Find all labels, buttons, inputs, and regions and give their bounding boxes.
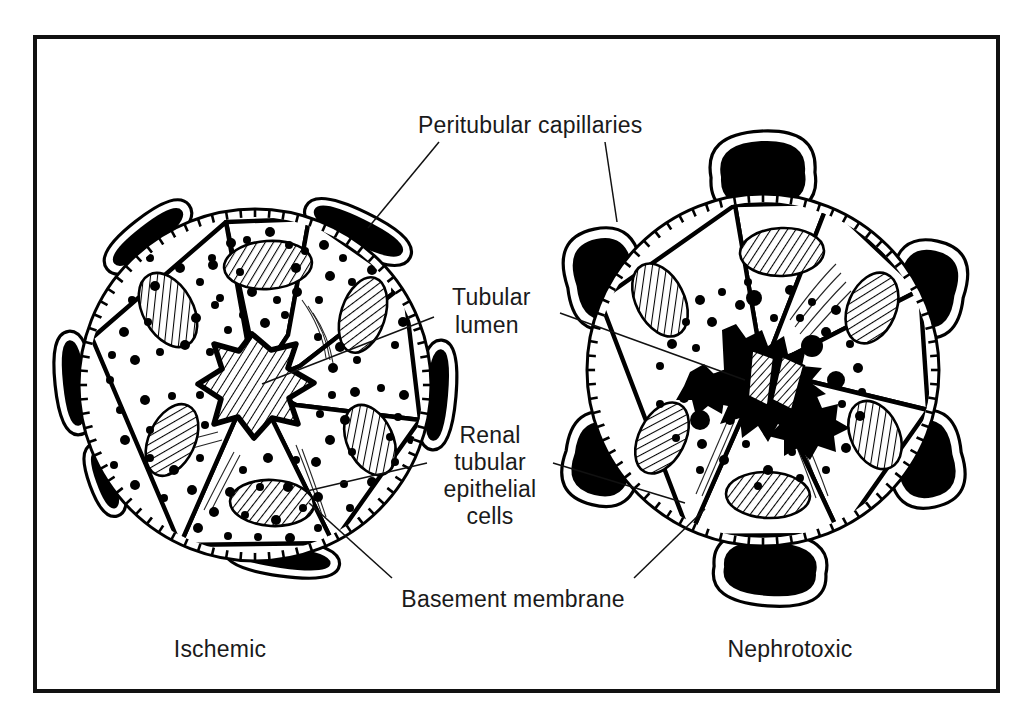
label-peritubular-capillaries: Peritubular capillaries — [418, 112, 642, 138]
label-tubular-lumen-line1: Tubular — [452, 284, 531, 310]
label-renal-epithelium-line1: Renal — [459, 422, 520, 448]
leader-capillaries-left — [368, 142, 439, 228]
panel-ischemic — [50, 188, 461, 584]
caption-ischemic: Ischemic — [174, 636, 266, 662]
epithelial-cells-nephrotoxic — [595, 202, 931, 538]
label-renal-epithelium-line3: epithelial — [444, 476, 537, 502]
panel-nephrotoxic — [554, 128, 974, 610]
label-renal-epithelium-line4: cells — [466, 503, 513, 529]
epithelial-cells-ischemic — [87, 217, 423, 553]
caption-nephrotoxic: Nephrotoxic — [728, 636, 853, 662]
label-renal-epithelium-line2: tubular — [454, 449, 526, 475]
label-tubular-lumen-line2: lumen — [455, 312, 519, 338]
label-basement-membrane: Basement membrane — [401, 586, 624, 612]
tubular-lumen-ischemic — [198, 334, 314, 438]
figure-root: Peritubular capillaries Tubular lumen Re… — [0, 0, 1029, 717]
leader-capillaries-right — [605, 142, 617, 222]
diagram-canvas: Peritubular capillaries Tubular lumen Re… — [0, 0, 1029, 717]
